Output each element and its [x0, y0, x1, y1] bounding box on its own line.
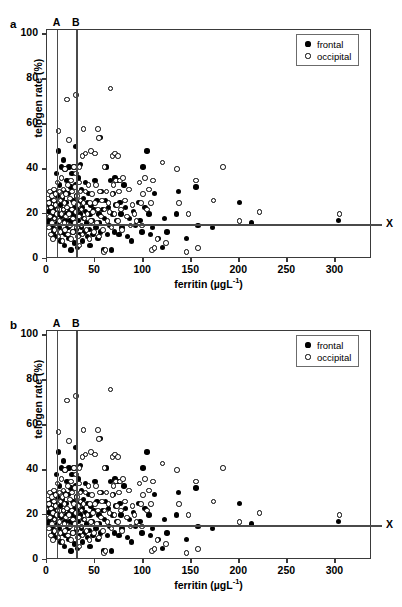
legend-label: occipital [314, 352, 351, 363]
data-point-occipital [120, 175, 126, 181]
data-point-occipital [186, 211, 192, 217]
y-tick-mark [42, 168, 46, 169]
x-tick-mark [286, 559, 287, 563]
data-point-frontal [174, 211, 179, 216]
data-point-occipital [68, 178, 74, 184]
legend: frontaloccipital [296, 34, 359, 66]
x-tick-label: 250 [269, 263, 303, 275]
data-point-occipital [85, 512, 91, 518]
data-point-occipital [97, 189, 103, 195]
data-point-frontal [68, 247, 73, 252]
y-tick-label: 80 [8, 71, 38, 83]
data-point-occipital [116, 189, 122, 195]
x-tick-mark [46, 559, 47, 563]
data-point-occipital [87, 537, 93, 543]
data-point-occipital [62, 467, 68, 473]
marker-glyph [305, 53, 310, 58]
data-point-occipital [184, 550, 190, 556]
marker-glyph [305, 41, 310, 46]
y-tick-label: 100 [8, 327, 38, 339]
data-point-occipital [110, 492, 116, 498]
data-point-occipital [106, 501, 112, 507]
data-point-occipital [88, 519, 94, 525]
data-point-occipital [81, 427, 87, 433]
data-point-occipital [120, 476, 126, 482]
data-point-occipital [100, 227, 106, 233]
data-point-occipital [119, 528, 125, 534]
data-point-occipital [257, 209, 263, 215]
legend-entry-occipital: occipital [302, 351, 351, 363]
x-tick-mark [334, 258, 335, 262]
data-point-occipital [96, 535, 102, 541]
legend-entry-frontal: frontal [302, 38, 351, 50]
data-point-occipital [126, 187, 132, 193]
data-point-occipital [130, 503, 136, 509]
data-point-occipital [211, 499, 217, 505]
data-point-frontal [146, 211, 151, 216]
data-point-frontal [148, 232, 153, 237]
y-tick-mark [42, 213, 46, 214]
x-tick-mark [46, 258, 47, 262]
marker-glyph [305, 342, 310, 347]
data-point-occipital [104, 189, 110, 195]
data-point-occipital [152, 546, 158, 552]
data-point-frontal [105, 232, 110, 237]
x-tick-label: 150 [173, 263, 207, 275]
data-point-frontal [105, 533, 110, 538]
data-point-frontal [109, 247, 114, 252]
x-tick-label: 100 [125, 564, 159, 576]
data-point-occipital [184, 249, 190, 255]
y-tick-label: 80 [8, 372, 38, 384]
x-tick-mark [190, 559, 191, 563]
data-point-occipital [132, 512, 138, 518]
data-point-occipital [193, 178, 199, 184]
data-point-occipital [119, 227, 125, 233]
data-point-occipital [97, 490, 103, 496]
data-point-occipital [122, 198, 128, 204]
data-point-frontal [140, 465, 145, 470]
data-point-frontal [61, 157, 66, 162]
data-point-occipital [220, 164, 226, 170]
x-tick-label: 50 [77, 263, 111, 275]
y-tick-label: 40 [8, 462, 38, 474]
y-tick-label: 0 [8, 251, 38, 263]
data-point-occipital [68, 236, 74, 242]
data-point-occipital [66, 438, 72, 444]
data-point-frontal [68, 548, 73, 553]
data-point-occipital [83, 452, 89, 458]
data-point-occipital [62, 166, 68, 172]
data-point-occipital [160, 160, 166, 166]
data-point-occipital [110, 191, 116, 197]
x-tick-label: 200 [221, 263, 255, 275]
data-point-frontal [164, 530, 169, 535]
reference-line-x-a [46, 224, 382, 226]
data-point-occipital [155, 236, 161, 242]
data-point-frontal [164, 229, 169, 234]
data-point-occipital [103, 548, 109, 554]
data-point-occipital [155, 537, 161, 543]
data-point-occipital [88, 218, 94, 224]
data-point-frontal [144, 148, 149, 153]
data-point-occipital [115, 153, 121, 159]
data-point-occipital [150, 178, 156, 184]
data-point-frontal [162, 517, 167, 522]
data-point-occipital [85, 211, 91, 217]
data-point-occipital [257, 510, 263, 516]
data-point-frontal [237, 501, 242, 506]
data-point-occipital [148, 501, 154, 507]
data-point-occipital [116, 490, 122, 496]
y-tick-label: 20 [8, 507, 38, 519]
x-tick-label: 200 [221, 564, 255, 576]
data-point-frontal [121, 483, 126, 488]
data-point-occipital [134, 519, 140, 525]
data-point-frontal [336, 218, 341, 223]
data-point-occipital [50, 537, 56, 543]
data-point-occipital [142, 476, 148, 482]
data-point-frontal [176, 189, 181, 194]
data-point-occipital [160, 461, 166, 467]
data-point-occipital [174, 166, 180, 172]
x-tick-label: 100 [125, 263, 159, 275]
data-point-occipital [59, 476, 65, 482]
data-point-frontal [184, 236, 189, 241]
data-point-occipital [108, 387, 114, 393]
